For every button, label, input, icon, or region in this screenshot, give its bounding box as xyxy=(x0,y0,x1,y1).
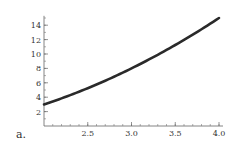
x-tick-label: 3.0 xyxy=(125,129,138,138)
subfigure-label: a. xyxy=(16,128,26,141)
y-tick-label: 4 xyxy=(36,93,41,102)
y-tick-label: 8 xyxy=(36,64,41,73)
x-tick-label: 4.0 xyxy=(213,129,226,138)
x-tick-label: 3.5 xyxy=(169,129,182,138)
x-tick-label: 2.5 xyxy=(81,129,94,138)
y-tick-label: 2 xyxy=(36,108,41,117)
function-curve xyxy=(44,18,219,104)
y-tick-label: 12 xyxy=(31,36,41,45)
y-tick-label: 10 xyxy=(31,50,41,59)
y-tick-label: 6 xyxy=(36,79,41,88)
y-tick-label: 14 xyxy=(31,21,41,30)
function-plot: 2.53.03.54.02468101214 xyxy=(0,0,234,150)
